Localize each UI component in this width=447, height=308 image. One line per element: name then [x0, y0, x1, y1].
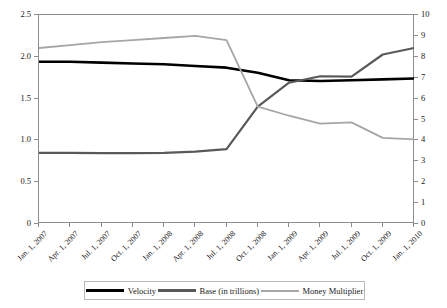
x-tick-mark [38, 223, 39, 227]
right-tick-mark [414, 139, 418, 140]
right-tick-label: 7 [421, 72, 425, 81]
left-tick-mark [34, 14, 38, 15]
right-tick-label: 1 [421, 198, 425, 207]
right-tick-label: 3 [421, 156, 425, 165]
left-tick-mark [34, 56, 38, 57]
left-tick-label: 2.5 [0, 10, 31, 19]
right-tick-mark [414, 119, 418, 120]
left-tick-label: 1.0 [0, 135, 31, 144]
left-tick-mark [34, 181, 38, 182]
x-tick-mark [69, 223, 70, 227]
right-tick-mark [414, 202, 418, 203]
x-tick-mark [194, 223, 195, 227]
right-tick-mark [414, 160, 418, 161]
left-tick-label: 0.5 [0, 177, 31, 186]
series-lines [39, 15, 415, 224]
right-tick-label: 5 [421, 114, 425, 123]
right-tick-label: 4 [421, 135, 425, 144]
x-tick-mark [319, 223, 320, 227]
series-line-money-multiplier [39, 36, 414, 139]
right-tick-mark [414, 223, 418, 224]
left-tick-label: 0 [0, 219, 31, 228]
right-tick-mark [414, 35, 418, 36]
x-tick-mark [382, 223, 383, 227]
plot-area [38, 14, 414, 223]
left-tick-mark [34, 98, 38, 99]
x-tick-mark [226, 223, 227, 227]
x-tick-mark [288, 223, 289, 227]
left-tick-label: 2.0 [0, 52, 31, 61]
right-tick-mark [414, 77, 418, 78]
right-tick-label: 10 [421, 10, 430, 19]
right-tick-mark [414, 98, 418, 99]
x-tick-mark [257, 223, 258, 227]
right-tick-label: 6 [421, 93, 425, 102]
chart-container: Velocity Base (in trillions) Money Multi… [0, 0, 447, 308]
right-tick-label: 9 [421, 31, 425, 40]
left-tick-mark [34, 139, 38, 140]
right-tick-mark [414, 14, 418, 15]
right-tick-mark [414, 56, 418, 57]
x-tick-mark [132, 223, 133, 227]
x-tick-mark [413, 223, 414, 227]
series-line-base-in-trillions [39, 48, 414, 153]
x-tick-mark [163, 223, 164, 227]
right-tick-label: 0 [421, 219, 425, 228]
left-tick-label: 1.5 [0, 93, 31, 102]
x-tick-mark [101, 223, 102, 227]
right-tick-mark [414, 181, 418, 182]
right-tick-label: 2 [421, 177, 425, 186]
x-tick-mark [351, 223, 352, 227]
right-tick-label: 8 [421, 52, 425, 61]
